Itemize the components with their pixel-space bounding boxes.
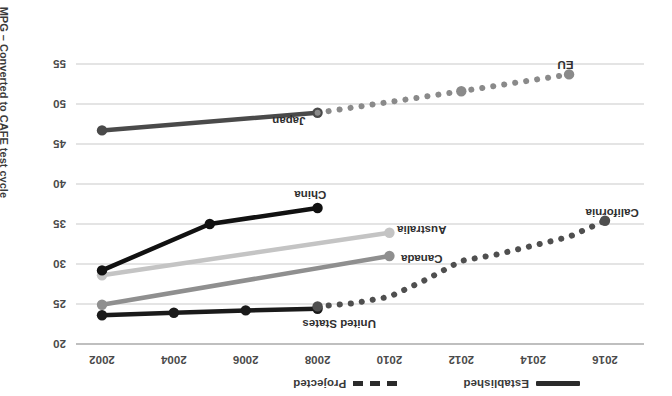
legend-item-established[interactable]: Established bbox=[463, 378, 580, 390]
x-tick-label-2008: 2008 bbox=[305, 354, 331, 366]
x-tick-label-2006: 2006 bbox=[233, 354, 259, 366]
data-point[interactable] bbox=[312, 203, 322, 213]
series-label-japan: Japan bbox=[272, 115, 305, 127]
y-tick-label-50: 50 bbox=[53, 98, 66, 110]
series-label-eu: EU bbox=[557, 59, 573, 71]
data-point[interactable] bbox=[97, 265, 107, 275]
y-axis-title: MPG – Converted to CAFE test cycle bbox=[0, 7, 10, 198]
series-line-canada[interactable] bbox=[102, 256, 389, 305]
y-tick-label-25: 25 bbox=[53, 298, 66, 310]
series-label-california: California bbox=[586, 207, 639, 219]
rotated-chart-figure: Established Projected MPG – Converted to… bbox=[0, 0, 672, 396]
series-label-united-states: United States bbox=[302, 318, 376, 330]
legend-item-projected[interactable]: Projected bbox=[293, 378, 397, 390]
y-tick-label-55: 55 bbox=[53, 58, 66, 70]
data-point[interactable] bbox=[384, 251, 394, 261]
x-tick-label-2014: 2014 bbox=[520, 354, 546, 366]
x-tick-label-2004: 2004 bbox=[161, 354, 187, 366]
series-line-united-states[interactable] bbox=[102, 309, 318, 315]
dashed-line-swatch-icon bbox=[353, 382, 397, 387]
data-point[interactable] bbox=[97, 125, 107, 135]
legend-label-projected: Projected bbox=[293, 378, 346, 390]
solid-line-swatch-icon bbox=[536, 382, 580, 387]
y-tick-label-20: 20 bbox=[53, 338, 66, 350]
x-tick-label-2016: 2016 bbox=[592, 354, 618, 366]
series-label-china: China bbox=[294, 189, 326, 201]
data-point[interactable] bbox=[384, 228, 394, 238]
data-point[interactable] bbox=[241, 305, 251, 315]
series-line-eu[interactable] bbox=[318, 74, 569, 112]
data-point[interactable] bbox=[205, 219, 215, 229]
x-tick-label-2012: 2012 bbox=[449, 354, 475, 366]
x-tick-label-2010: 2010 bbox=[377, 354, 403, 366]
x-tick-label-2002: 2002 bbox=[89, 354, 115, 366]
y-tick-label-30: 30 bbox=[53, 258, 66, 270]
y-tick-label-35: 35 bbox=[53, 218, 66, 230]
legend-label-established: Established bbox=[463, 378, 529, 390]
y-tick-label-45: 45 bbox=[53, 138, 66, 150]
data-point[interactable] bbox=[456, 86, 466, 96]
series-label-canada: Canada bbox=[401, 253, 443, 265]
chart-legend: Established Projected bbox=[293, 378, 580, 390]
data-point[interactable] bbox=[169, 308, 179, 318]
y-tick-label-40: 40 bbox=[53, 178, 66, 190]
series-label-australia: Australia bbox=[397, 224, 446, 236]
data-point[interactable] bbox=[97, 300, 107, 310]
data-point[interactable] bbox=[97, 310, 107, 320]
data-point[interactable] bbox=[312, 301, 322, 311]
